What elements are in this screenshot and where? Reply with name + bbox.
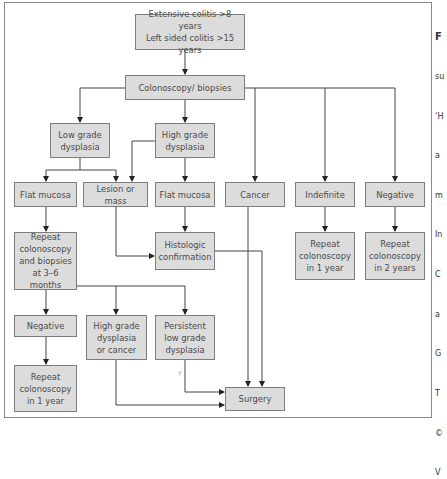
caption-line-7: a xyxy=(435,308,447,321)
node-repeat-2yr-label: Repeat colonoscopy in 2 years xyxy=(369,238,421,274)
node-hgd-or-cancer-label: High grade dysplasia or cancer xyxy=(93,320,139,356)
caption-line-10: © xyxy=(435,427,447,440)
node-indefinite-label: Indefinite xyxy=(305,189,345,201)
caption-line-11: V xyxy=(435,466,447,479)
node-repeat-1yr-neg-label: Repeat colonoscopy in 1 year xyxy=(20,371,72,407)
node-repeat-3-6-months: Repeat colonoscopy and biopsies at 3–6 m… xyxy=(14,232,77,290)
node-persistent-lgd: Persistent low grade dysplasia xyxy=(155,315,215,360)
node-flat-mucosa-low-label: Flat mucosa xyxy=(20,189,71,201)
node-lesion-mass-label: Lesion or mass xyxy=(86,183,145,207)
node-negative-top: Negative xyxy=(365,182,425,207)
node-flat-mucosa-low: Flat mucosa xyxy=(14,182,77,207)
node-indefinite: Indefinite xyxy=(295,182,355,207)
caption-line-0: F xyxy=(435,30,447,43)
caption-line-1: su xyxy=(435,70,447,83)
node-lesion-mass: Lesion or mass xyxy=(83,182,148,207)
node-colonoscopy-label: Colonoscopy/ biopsies xyxy=(139,82,232,94)
node-repeat-1yr-indefinite: Repeat colonoscopy in 1 year xyxy=(295,232,355,280)
node-low-grade: Low grade dysplasia xyxy=(50,123,110,158)
node-repeat-1yr-negative: Repeat colonoscopy in 1 year xyxy=(14,365,77,412)
node-negative-bottom: Negative xyxy=(14,315,77,337)
caption-line-5: In xyxy=(435,228,447,241)
node-negative-bottom-label: Negative xyxy=(27,320,65,332)
node-surgery-label: Surgery xyxy=(239,393,272,405)
caption-line-4: m xyxy=(435,189,447,202)
node-flat-mucosa-high-label: Flat mucosa xyxy=(160,189,211,201)
node-colonoscopy: Colonoscopy/ biopsies xyxy=(125,75,245,100)
node-high-grade: High grade dysplasia xyxy=(155,123,215,158)
caption-line-8: G xyxy=(435,347,447,360)
caption-line-2: ‘H xyxy=(435,110,447,123)
node-surgery: Surgery xyxy=(225,387,285,411)
node-cancer-label: Cancer xyxy=(240,189,270,201)
node-negative-top-label: Negative xyxy=(376,189,414,201)
caption-line-9: T xyxy=(435,387,447,400)
node-repeat-3-6-label: Repeat colonoscopy and biopsies at 3–6 m… xyxy=(17,231,74,291)
node-histologic-label: Histologic confirmation xyxy=(159,239,212,263)
node-repeat-1yr-indef-label: Repeat colonoscopy in 1 year xyxy=(299,238,351,274)
node-persistent-lgd-label: Persistent low grade dysplasia xyxy=(164,320,205,356)
node-start: Extensive colitis >8 years Left sided co… xyxy=(135,14,245,50)
caption-fragment: F su ‘H a m In C a G T © V xyxy=(435,4,447,479)
node-repeat-2yr: Repeat colonoscopy in 2 years xyxy=(365,232,425,280)
node-cancer: Cancer xyxy=(225,182,285,207)
node-hgd-or-cancer: High grade dysplasia or cancer xyxy=(86,315,147,360)
caption-line-6: C xyxy=(435,268,447,281)
node-flat-mucosa-high: Flat mucosa xyxy=(155,182,215,207)
node-high-grade-label: High grade dysplasia xyxy=(162,129,208,153)
caption-line-3: a xyxy=(435,149,447,162)
question-mark-annotation: ? xyxy=(178,370,181,377)
node-low-grade-label: Low grade dysplasia xyxy=(58,129,102,153)
node-histologic-confirmation: Histologic confirmation xyxy=(155,232,215,270)
node-start-label: Extensive colitis >8 years Left sided co… xyxy=(138,8,242,56)
